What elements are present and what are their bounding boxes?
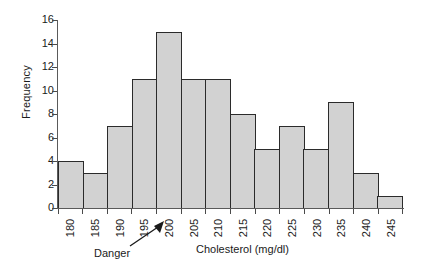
x-tick-label: 200 bbox=[163, 219, 174, 237]
x-tick-label-cell: 230 bbox=[304, 214, 329, 248]
x-tick-label: 220 bbox=[262, 219, 273, 237]
histogram-bar bbox=[230, 114, 256, 208]
bar-series bbox=[58, 20, 403, 208]
histogram-bar bbox=[58, 161, 84, 208]
x-tick-label-cell: 235 bbox=[329, 214, 354, 248]
histogram-bar bbox=[353, 173, 379, 208]
histogram-bar bbox=[132, 79, 158, 208]
x-tick-label: 240 bbox=[361, 219, 372, 237]
histogram-bar bbox=[205, 79, 231, 208]
x-tick-label-cell: 200 bbox=[157, 214, 182, 248]
histogram-bar bbox=[181, 79, 207, 208]
x-tick-label-cell: 185 bbox=[83, 214, 108, 248]
x-tick-label-cell: 245 bbox=[378, 214, 403, 248]
x-tick-label: 180 bbox=[65, 219, 76, 237]
y-axis-ticks: 0246810121416 bbox=[36, 0, 54, 278]
x-axis-title: Cholesterol (mg/dl) bbox=[196, 243, 289, 255]
x-tick-label-cell: 180 bbox=[58, 214, 83, 248]
x-tick-label-cell: 190 bbox=[107, 214, 132, 248]
x-tick-label: 215 bbox=[237, 219, 248, 237]
histogram-bar bbox=[254, 149, 280, 208]
y-axis-title: Frequency bbox=[20, 52, 32, 132]
x-tick-label: 185 bbox=[89, 219, 100, 237]
histogram-bar bbox=[377, 196, 403, 208]
x-tick-label: 190 bbox=[114, 219, 125, 237]
histogram-bar bbox=[107, 126, 133, 208]
histogram-bar bbox=[303, 149, 329, 208]
x-tick-label: 235 bbox=[336, 219, 347, 237]
x-tick-label-cell: 195 bbox=[132, 214, 157, 248]
x-tick-label: 225 bbox=[287, 219, 298, 237]
x-tick-label-cell: 240 bbox=[354, 214, 379, 248]
histogram-bar bbox=[156, 32, 182, 208]
x-tick-label: 245 bbox=[385, 219, 396, 237]
histogram-bar bbox=[328, 102, 354, 208]
histogram-chart: Frequency 0246810121416 1801851901952002… bbox=[0, 0, 426, 278]
x-tick-label: 195 bbox=[139, 219, 150, 237]
plot-area bbox=[58, 20, 403, 208]
histogram-bar bbox=[279, 126, 305, 208]
histogram-bar bbox=[83, 173, 109, 208]
x-tick-label: 210 bbox=[213, 219, 224, 237]
danger-annotation-label: Danger bbox=[94, 247, 130, 259]
x-tick-label: 205 bbox=[188, 219, 199, 237]
x-tick-label: 230 bbox=[311, 219, 322, 237]
